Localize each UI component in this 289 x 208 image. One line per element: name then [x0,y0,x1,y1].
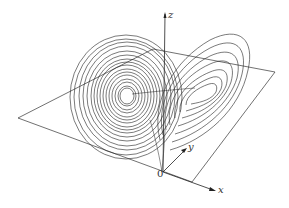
right-lobe [158,34,250,150]
z-axis-label: z [168,9,173,20]
lorenz-attractor-figure [0,0,289,208]
y-axis-label: y [188,141,194,152]
xy-plane [18,49,275,182]
x-axis-label: x [218,184,224,195]
origin-label: 0 [157,168,163,179]
y-axis [163,150,185,172]
x-axis [163,172,213,190]
